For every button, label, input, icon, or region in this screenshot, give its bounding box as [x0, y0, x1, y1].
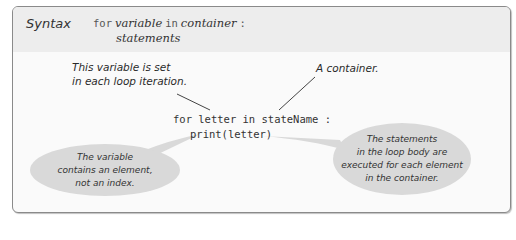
right-bubble-line-2: in the loop body are — [341, 146, 463, 159]
variable-annotation-line-1: This variable is set — [72, 60, 187, 74]
variable-annotation-line-2: in each loop iteration. — [72, 74, 187, 88]
container-pointer-line — [279, 77, 315, 110]
left-bubble-line-3: not an index. — [57, 177, 152, 190]
right-bubble-line-1: The statements — [341, 133, 463, 146]
left-callout-bubble: The variable contains an element, not an… — [30, 144, 180, 196]
variable-annotation: This variable is set in each loop iterat… — [72, 60, 187, 88]
right-bubble-line-4: in the container. — [341, 172, 463, 185]
left-bubble-line-1: The variable — [57, 151, 152, 164]
left-bubble-line-2: contains an element, — [57, 164, 152, 177]
right-bubble-line-3: executed for each element — [341, 159, 463, 172]
container-annotation: A container. — [316, 61, 379, 75]
variable-pointer-line — [177, 94, 210, 110]
right-bubble-tail — [262, 136, 345, 150]
right-callout-bubble: The statements in the loop body are exec… — [333, 123, 471, 195]
code-line-2: print(letter) — [190, 128, 272, 140]
code-line-1: for letter in stateName : — [173, 113, 331, 125]
